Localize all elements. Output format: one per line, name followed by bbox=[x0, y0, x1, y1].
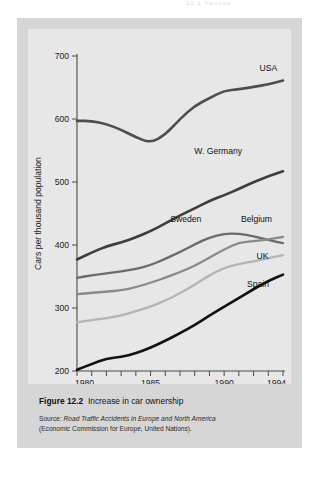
caption-text: Increase in car ownership bbox=[88, 396, 183, 406]
series-label-belgium: Belgium bbox=[241, 214, 272, 224]
line-chart: 200300400500600700 1980198519901994 USAW… bbox=[28, 29, 291, 384]
series-label-spain: Spain bbox=[247, 279, 269, 289]
running-head: 12.2 Various bbox=[186, 0, 306, 7]
figure-caption: Figure 12.2 Increase in car ownership So… bbox=[39, 396, 289, 433]
y-axis-title: Cars per thousand population bbox=[33, 157, 43, 270]
series-label-sweden: Sweden bbox=[170, 214, 201, 224]
series-label-usa: USA bbox=[259, 63, 277, 73]
plot-background bbox=[28, 29, 291, 384]
caption-label: Figure bbox=[39, 396, 65, 406]
x-tick-label: 1980 bbox=[75, 378, 94, 384]
caption-title: Figure 12.2 Increase in car ownership bbox=[39, 396, 289, 407]
source-label: Source: bbox=[39, 415, 62, 422]
figure-block: 200300400500600700 1980198519901994 USAW… bbox=[17, 18, 302, 448]
y-axis-title-text: Cars per thousand population bbox=[33, 157, 43, 270]
y-tick-label: 300 bbox=[55, 303, 70, 313]
y-tick-label: 400 bbox=[55, 240, 70, 250]
caption-number: 12.2 bbox=[67, 396, 83, 406]
y-tick-label: 600 bbox=[55, 114, 70, 124]
series-label-w-germany: W. Germany bbox=[194, 146, 242, 156]
y-tick-label: 500 bbox=[55, 177, 70, 187]
x-tick-label: 1994 bbox=[267, 378, 286, 384]
series-label-uk: UK bbox=[256, 251, 268, 261]
x-tick-label: 1990 bbox=[215, 378, 234, 384]
x-tick-label: 1985 bbox=[141, 378, 160, 384]
chart-panel: 200300400500600700 1980198519901994 USAW… bbox=[28, 29, 291, 384]
source-organization: (Economic Commission for Europe, United … bbox=[39, 425, 192, 432]
caption-source: Source: Road Traffic Accidents in Europe… bbox=[39, 414, 289, 433]
source-title: Road Traffic Accidents in Europe and Nor… bbox=[64, 415, 216, 422]
y-tick-label: 700 bbox=[55, 51, 70, 61]
y-tick-label: 200 bbox=[55, 366, 70, 376]
